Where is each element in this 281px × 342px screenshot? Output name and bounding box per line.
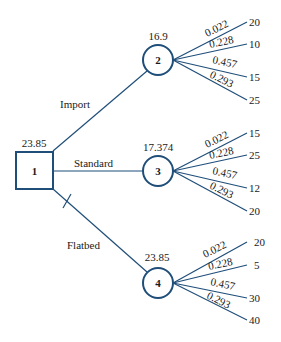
outcome-value: 40 <box>249 314 261 326</box>
outcome-value: 10 <box>249 38 261 50</box>
chance-node-id: 3 <box>155 165 161 177</box>
pruned-branch-marker <box>63 194 71 208</box>
chance-node-group-3: 3 17.374 0.022 0.228 0.457 0.293 15 25 1… <box>143 127 261 217</box>
outcome-value: 20 <box>254 236 266 248</box>
chance-node-group-2: 2 16.9 0.022 0.228 0.457 0.293 20 10 15 … <box>143 16 261 106</box>
branch-import <box>53 71 147 151</box>
decision-node-id: 1 <box>32 165 38 177</box>
outcome-value: 15 <box>249 71 261 83</box>
outcome-value: 20 <box>249 16 261 28</box>
outcome-value: 5 <box>254 259 260 271</box>
branch-label-flatbed: Flatbed <box>67 239 100 251</box>
chance-node-group-4: 4 23.85 0.022 0.228 0.457 0.293 20 5 30 … <box>143 236 266 326</box>
decision-node-value: 23.85 <box>22 137 47 149</box>
outcome-value: 25 <box>249 149 261 161</box>
branch-label-import: Import <box>60 98 90 110</box>
chance-node-value: 23.85 <box>145 251 170 263</box>
outcome-probability: 0.457 <box>212 164 239 181</box>
outcome-probability: 0.293 <box>205 289 233 311</box>
outcome-value: 25 <box>249 94 261 106</box>
decision-tree-diagram: Import Standard Flatbed 1 23.85 2 16.9 0… <box>0 0 281 342</box>
branch-label-standard: Standard <box>74 157 114 169</box>
chance-node-value: 17.374 <box>143 141 174 153</box>
outcome-value: 30 <box>249 292 261 304</box>
outcome-probability: 0.457 <box>212 53 239 70</box>
outcome-value: 15 <box>249 127 261 139</box>
chance-node-id: 4 <box>155 277 161 289</box>
chance-node-value: 16.9 <box>148 30 168 42</box>
chance-node-id: 2 <box>155 54 161 66</box>
outcome-value: 20 <box>249 205 261 217</box>
outcome-value: 12 <box>249 182 260 194</box>
